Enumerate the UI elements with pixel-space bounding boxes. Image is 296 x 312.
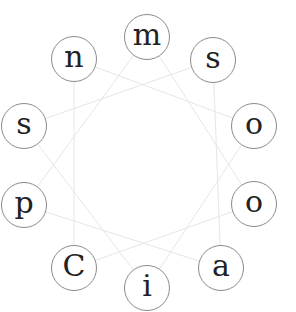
letter-tile[interactable]: a xyxy=(198,245,244,291)
letter-tile[interactable]: n xyxy=(51,36,97,82)
letter-tile[interactable]: o xyxy=(231,103,277,149)
letter-tile[interactable]: i xyxy=(124,265,170,311)
letter-label: C xyxy=(63,251,86,281)
letter-label: o xyxy=(245,109,263,139)
letter-label: s xyxy=(205,43,220,73)
letter-label: m xyxy=(133,20,161,50)
letter-tile[interactable]: o xyxy=(231,181,277,227)
letter-tile[interactable]: s xyxy=(1,103,47,149)
letter-label: i xyxy=(142,271,152,301)
letter-label: p xyxy=(14,188,33,218)
letter-label: a xyxy=(212,251,230,281)
letter-tile[interactable]: p xyxy=(1,182,47,228)
letter-label: o xyxy=(245,187,263,217)
letter-tile[interactable]: C xyxy=(51,245,97,291)
letter-tile[interactable]: s xyxy=(190,37,236,83)
letter-tile[interactable]: m xyxy=(124,14,170,60)
letter-label: s xyxy=(16,109,31,139)
letter-label: n xyxy=(64,42,83,72)
